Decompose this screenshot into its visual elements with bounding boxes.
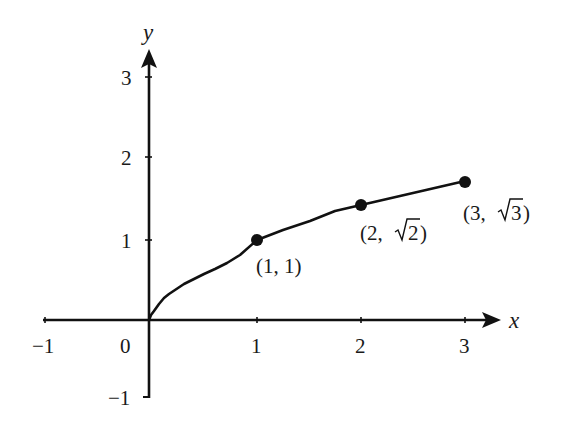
y-axis-label: y	[141, 20, 154, 45]
x-tick-label-3: 3	[459, 334, 470, 358]
point-label-1-1: (1, 1)	[256, 254, 302, 278]
point-3-sqrt3	[459, 176, 471, 188]
y-tick-label-neg1: −1	[108, 386, 130, 410]
point-2-sqrt2	[355, 199, 367, 211]
point-label-3-prefix: (3,	[463, 201, 486, 225]
y-axis	[141, 49, 157, 398]
point-label-3-radicand: 3	[511, 201, 522, 225]
point-label-2-prefix: (2,	[360, 221, 383, 245]
x-axis	[43, 312, 501, 328]
point-label-2-radicand: 2	[408, 221, 419, 245]
y-tick-label-2: 2	[121, 146, 132, 170]
x-tick-label-neg1: −1	[32, 334, 54, 358]
y-tick-label-1: 1	[121, 229, 132, 253]
point-label-2-suffix: )	[420, 221, 427, 245]
x-tick-label-1: 1	[251, 334, 262, 358]
y-tick-label-3: 3	[121, 66, 132, 90]
point-label-3-sqrt3: (3, 3 )	[463, 199, 530, 225]
x-axis-label: x	[508, 308, 520, 333]
x-tick-label-2: 2	[355, 334, 366, 358]
sqrt-curve	[149, 181, 465, 320]
point-1-1	[251, 234, 263, 246]
origin-label: 0	[120, 334, 131, 358]
point-label-3-suffix: )	[523, 201, 530, 225]
sqrt-function-graph: y x −1 0 1 2 3 3 2 1 −1 (1, 1) (2, 2 ) (…	[0, 0, 563, 429]
point-label-2-sqrt2: (2, 2 )	[360, 219, 427, 245]
